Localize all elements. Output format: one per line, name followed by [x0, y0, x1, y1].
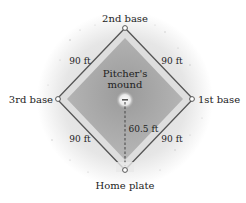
mound-label-line2: mound — [108, 79, 143, 90]
first-base-marker — [190, 97, 195, 102]
distance-mound-to-home: 60.5 ft — [129, 124, 159, 134]
second-base-label: 2nd base — [102, 13, 148, 24]
third-base-label: 3rd base — [9, 94, 53, 105]
first-base-label: 1st base — [198, 94, 240, 105]
baseball-diamond-diagram: 2nd base 3rd base 1st base Home plate Pi… — [0, 0, 246, 203]
pitchers-rubber — [122, 99, 128, 101]
mound-label-line1: Pitcher's — [103, 68, 148, 79]
third-base-marker — [56, 97, 61, 102]
distance-first-to-second: 90 ft — [161, 56, 183, 66]
distance-home-to-first: 90 ft — [161, 134, 183, 144]
distance-third-to-home: 90 ft — [69, 134, 91, 144]
home-plate-marker — [123, 168, 128, 173]
second-base-marker — [123, 26, 128, 31]
distance-second-to-third: 90 ft — [69, 56, 91, 66]
home-plate-label: Home plate — [96, 180, 155, 191]
